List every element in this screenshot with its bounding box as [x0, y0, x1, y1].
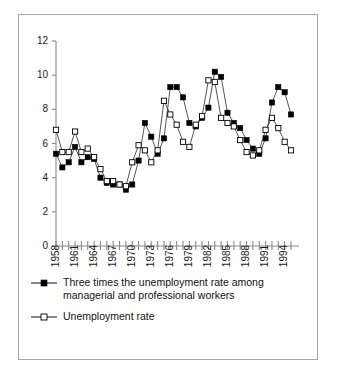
data-point-filled-square [219, 74, 224, 79]
y-axis-tick-label: 2 [42, 206, 48, 217]
data-point-open-square [244, 149, 249, 154]
data-point-open-square [238, 137, 243, 142]
data-point-open-square [117, 182, 122, 187]
data-point-open-square [149, 160, 154, 165]
data-point-open-square [66, 149, 71, 154]
data-point-open-square [276, 126, 281, 131]
chart-figure-frame: 024681012 195819611964196719701973197619… [18, 14, 318, 360]
legend-open-square-marker [41, 314, 47, 320]
data-point-filled-square [244, 137, 249, 142]
x-axis: 1958196119641967197019731976197919821985… [50, 241, 299, 267]
data-point-filled-square [269, 100, 274, 105]
x-axis-tick-label: 1964 [88, 244, 99, 267]
data-point-filled-square [72, 144, 77, 149]
data-point-open-square [187, 144, 192, 149]
data-point-open-square [85, 146, 90, 151]
data-point-open-square [79, 149, 84, 154]
data-point-filled-square [225, 110, 230, 115]
y-axis-tick-label: 4 [42, 172, 48, 183]
data-point-filled-square [206, 105, 211, 110]
data-point-open-square [174, 122, 179, 127]
data-point-open-square [199, 114, 204, 119]
x-axis-tick-label: 1961 [69, 244, 80, 267]
data-point-open-square [60, 149, 65, 154]
data-point-filled-square [130, 182, 135, 187]
data-point-filled-square [276, 85, 281, 90]
data-point-filled-square [187, 120, 192, 125]
chart-legend: Three times the unemployment rate amongm… [31, 276, 264, 322]
data-point-filled-square [60, 165, 65, 170]
data-point-open-square [180, 139, 185, 144]
data-point-open-square [212, 79, 217, 84]
x-axis-tick-label: 1967 [107, 244, 118, 267]
legend-label-line1-2: Unemployment rate [63, 310, 155, 322]
chart-series-group [53, 69, 293, 192]
x-axis-tick-label: 1979 [183, 244, 194, 267]
data-point-filled-square [142, 120, 147, 125]
data-point-open-square [168, 112, 173, 117]
data-point-open-square [161, 98, 166, 103]
data-point-open-square [263, 127, 268, 132]
data-point-open-square [288, 148, 293, 153]
data-point-open-square [193, 122, 198, 127]
y-axis-tick-label: 0 [42, 240, 48, 251]
legend-filled-square-marker [41, 280, 47, 286]
data-point-filled-square [212, 69, 217, 74]
series-line-2 [56, 80, 291, 186]
data-point-open-square [104, 178, 109, 183]
data-point-filled-square [174, 85, 179, 90]
chart-plot-area: 024681012 195819611964196719701973197619… [19, 15, 319, 361]
data-point-open-square [231, 124, 236, 129]
y-axis-tick-label: 10 [37, 69, 49, 80]
legend-label-line1-1: Three times the unemployment rate among [63, 276, 264, 288]
y-axis-tick-label: 12 [37, 35, 49, 46]
data-point-open-square [206, 78, 211, 83]
x-axis-tick-label: 1958 [50, 244, 61, 267]
data-point-filled-square [250, 146, 255, 151]
y-axis: 024681012 [37, 35, 56, 251]
data-point-filled-square [282, 90, 287, 95]
x-axis-tick-label: 1970 [126, 244, 137, 267]
x-axis-tick-label: 1976 [164, 244, 175, 267]
data-point-filled-square [136, 158, 141, 163]
x-axis-tick-label: 1991 [259, 244, 270, 267]
series-line-1 [56, 72, 291, 190]
data-point-open-square [72, 129, 77, 134]
data-point-open-square [98, 167, 103, 172]
data-point-filled-square [85, 155, 90, 160]
y-axis-tick-label: 6 [42, 138, 48, 149]
data-point-open-square [142, 148, 147, 153]
data-point-filled-square [238, 126, 243, 131]
data-point-open-square [155, 148, 160, 153]
data-point-open-square [92, 155, 97, 160]
data-point-filled-square [263, 136, 268, 141]
data-point-open-square [225, 120, 230, 125]
x-axis-tick-label: 1988 [240, 244, 251, 267]
unemployment-rate-line-chart: 024681012 195819611964196719701973197619… [19, 15, 319, 361]
x-axis-tick-label: 1985 [221, 244, 232, 267]
data-point-filled-square [98, 175, 103, 180]
data-point-open-square [282, 139, 287, 144]
data-point-filled-square [161, 136, 166, 141]
data-point-open-square [136, 143, 141, 148]
data-point-open-square [257, 148, 262, 153]
x-axis-tick-label: 1982 [202, 244, 213, 267]
data-point-open-square [53, 127, 58, 132]
data-point-filled-square [79, 160, 84, 165]
data-point-filled-square [168, 85, 173, 90]
data-point-filled-square [288, 112, 293, 117]
data-point-filled-square [149, 134, 154, 139]
x-axis-tick-label: 1994 [278, 244, 289, 267]
data-point-open-square [250, 153, 255, 158]
data-point-open-square [130, 160, 135, 165]
legend-label-line2-1: managerial and professional workers [63, 289, 235, 301]
x-axis-tick-label: 1973 [145, 244, 156, 267]
data-point-open-square [111, 178, 116, 183]
y-axis-tick-label: 8 [42, 103, 48, 114]
data-point-filled-square [66, 160, 71, 165]
data-point-filled-square [180, 95, 185, 100]
data-point-open-square [219, 115, 224, 120]
data-point-open-square [269, 115, 274, 120]
data-point-filled-square [53, 151, 58, 156]
data-point-open-square [123, 184, 128, 189]
